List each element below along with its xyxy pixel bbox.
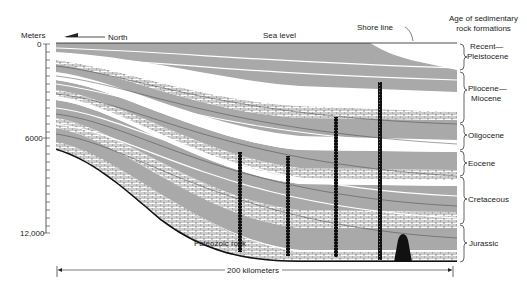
formation-miocene: Miocene (471, 94, 501, 103)
cross-section-diagram (0, 0, 527, 286)
legend-title-2: rock formations (440, 24, 527, 33)
formation-eocene: Eocene (468, 159, 495, 168)
sediment-layers (56, 43, 457, 263)
axis-tick-0: 0 (37, 40, 41, 49)
formation-brackets (460, 44, 467, 262)
formation-pleistocene: Pleistocene (467, 52, 508, 61)
sea-level-label: Sea level (263, 31, 296, 40)
formation-jurassic: Jurassic (469, 239, 498, 248)
formation-recent: Recent— (470, 42, 503, 51)
depth-axis (43, 44, 50, 233)
axis-tick-12000: 12,000 (20, 229, 44, 238)
legend-title-1: Age of sedimentary (440, 14, 527, 23)
shore-line-label: Shore line (357, 23, 393, 32)
paleozoic-label: Paleozoic rock (194, 239, 246, 248)
north-label: North (108, 33, 128, 42)
axis-tick-6000: 6000 (25, 134, 43, 143)
axis-title: Meters (21, 31, 45, 40)
formation-pliocene: Pliocene— (468, 84, 507, 93)
shoreline-pointer (405, 27, 413, 41)
scale-label: 200 kilometers (227, 266, 279, 275)
formation-cretaceous: Cretaceous (468, 195, 509, 204)
formation-oligocene: Oligocene (468, 131, 504, 140)
north-arrow-icon (64, 33, 105, 37)
